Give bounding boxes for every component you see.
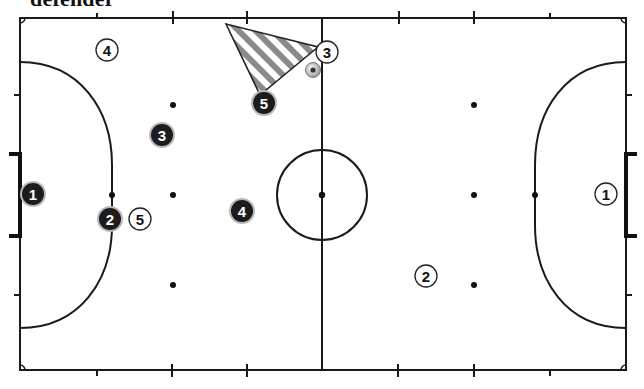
center-spot (319, 192, 325, 198)
svg-text:5: 5 (260, 95, 268, 112)
player-light-5: 5 (129, 208, 151, 230)
svg-text:2: 2 (422, 268, 430, 285)
player-dark-1: 1 (20, 181, 46, 207)
player-light-3: 3 (316, 41, 338, 63)
player-dark-3: 3 (149, 122, 175, 148)
player-dark-4: 4 (229, 198, 255, 224)
player-light-2: 2 (415, 265, 437, 287)
svg-text:5: 5 (136, 211, 144, 228)
svg-text:2: 2 (106, 211, 114, 228)
player-dark-2: 2 (97, 206, 123, 232)
goal-right (626, 154, 637, 236)
svg-text:4: 4 (238, 203, 247, 220)
player-light-1: 1 (595, 183, 617, 205)
player-light-4: 4 (96, 39, 118, 61)
ball-icon (306, 63, 321, 78)
futsal-pitch: 1234545321 (0, 0, 644, 389)
svg-text:4: 4 (103, 42, 112, 59)
svg-text:1: 1 (602, 186, 610, 203)
svg-text:3: 3 (158, 127, 166, 144)
svg-text:1: 1 (29, 186, 37, 203)
pressing-zone-triangle (226, 24, 318, 95)
goal-left (9, 154, 20, 236)
svg-text:3: 3 (323, 44, 331, 61)
player-dark-5: 5 (251, 90, 277, 116)
